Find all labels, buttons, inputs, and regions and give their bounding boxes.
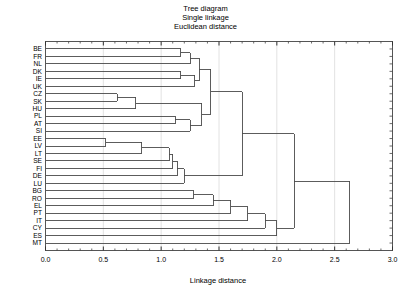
- leaf-label-fr: FR: [33, 53, 42, 60]
- leaf-label-at: AT: [34, 120, 42, 127]
- leaf-label-be: BE: [33, 45, 42, 52]
- leaf-label-cy: CY: [33, 224, 43, 231]
- leaf-label-sk: SK: [33, 98, 42, 105]
- x-tick-label: 0.5: [98, 256, 108, 263]
- x-tick-label: 2.0: [272, 256, 282, 263]
- x-tick-label: 0.0: [41, 256, 51, 263]
- leaf-label-pt: PT: [34, 209, 42, 216]
- leaf-label-lu: LU: [34, 180, 43, 187]
- leaf-label-hu: HU: [32, 105, 42, 112]
- leaf-label-mt: MT: [32, 239, 42, 246]
- dendrogram-tree: [46, 49, 350, 243]
- x-tick-label: 3.0: [388, 256, 398, 263]
- leaf-label-cz: CZ: [33, 90, 42, 97]
- leaf-label-de: DE: [33, 172, 43, 179]
- leaf-label-si: SI: [36, 127, 42, 134]
- leaf-label-el: EL: [34, 202, 42, 209]
- grid-lines: [103, 42, 334, 251]
- leaf-label-lt: LT: [35, 150, 42, 157]
- leaf-labels: BEFRNLDKIEUKCZSKHUPLATSIEELVLTSEFIDELUBG…: [32, 45, 42, 246]
- x-tick-label: 1.0: [156, 256, 166, 263]
- leaf-label-nl: NL: [34, 60, 43, 67]
- leaf-label-dk: DK: [33, 68, 43, 75]
- x-axis-tick-labels: 0.00.51.01.52.02.53.0: [41, 256, 398, 263]
- leaf-label-se: SE: [33, 157, 42, 164]
- x-tick-label: 1.5: [214, 256, 224, 263]
- x-tick-label: 2.5: [330, 256, 340, 263]
- dendrogram-figure: Tree diagram Single linkage Euclidean di…: [0, 0, 411, 294]
- leaf-label-lv: LV: [34, 142, 42, 149]
- leaf-label-bg: BG: [32, 187, 42, 194]
- leaf-label-pl: PL: [34, 112, 42, 119]
- leaf-label-uk: UK: [33, 83, 43, 90]
- leaf-label-es: ES: [33, 232, 42, 239]
- leaf-label-fi: FI: [36, 165, 42, 172]
- leaf-label-ro: RO: [32, 195, 42, 202]
- x-axis-title: Linkage distance: [190, 276, 246, 285]
- dendrogram-plot: BEFRNLDKIEUKCZSKHUPLATSIEELVLTSEFIDELUBG…: [0, 0, 411, 294]
- leaf-label-ie: IE: [36, 75, 43, 82]
- leaf-label-ee: EE: [33, 135, 42, 142]
- leaf-label-it: IT: [36, 217, 42, 224]
